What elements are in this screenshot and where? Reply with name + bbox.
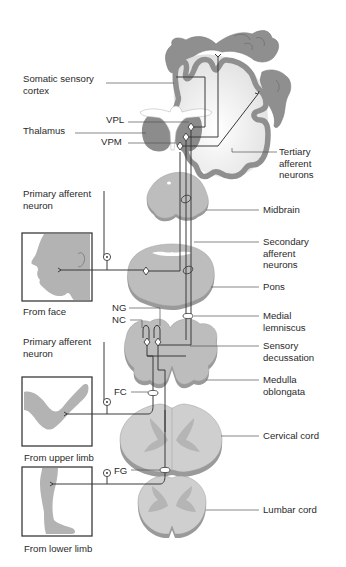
label-lumbar-cord: Lumbar cord: [263, 504, 317, 516]
fg-oval: [160, 467, 170, 472]
label-medial-lemniscus: Medial lemniscus: [263, 310, 306, 333]
midbrain: [147, 172, 208, 221]
medulla-oblongata: [124, 319, 217, 388]
lumbar-cord: [138, 476, 206, 538]
label-cervical-cord: Cervical cord: [263, 430, 319, 442]
label-from-face: From face: [23, 306, 66, 318]
label-vpm: VPM: [101, 136, 122, 148]
somatosensory-pathway-diagram: Somatic sensory cortex Thalamus VPL VPM …: [0, 0, 346, 567]
label-midbrain: Midbrain: [263, 204, 300, 216]
label-vpl: VPL: [106, 114, 124, 126]
label-pons: Pons: [263, 281, 285, 293]
label-somatic-sensory-cortex: Somatic sensory cortex: [23, 73, 94, 96]
face-panel: [22, 233, 92, 301]
label-nc: NC: [112, 314, 126, 326]
fc-oval: [148, 390, 158, 395]
cerebrum: [165, 31, 290, 178]
label-thalamus: Thalamus: [23, 125, 65, 137]
label-secondary-afferent-neurons: Secondary afferent neurons: [263, 236, 309, 271]
lower-limb-panel: [22, 467, 92, 536]
label-from-lower-limb: From lower limb: [24, 543, 92, 555]
label-tertiary-afferent-neurons: Tertiary afferent neurons: [279, 146, 314, 181]
medial-lemniscus-oval: [183, 313, 193, 318]
label-from-upper-limb: From upper limb: [24, 452, 94, 464]
label-sensory-decussation: Sensory decussation: [263, 340, 314, 363]
label-ng: NG: [112, 302, 126, 314]
label-primary-afferent-neuron-limb: Primary afferent neuron: [23, 336, 91, 359]
label-primary-afferent-neuron-face: Primary afferent neuron: [23, 188, 91, 211]
upper-limb-panel: [22, 377, 92, 446]
pons: [128, 244, 215, 310]
label-medulla-oblongata: Medulla oblongata: [263, 374, 305, 397]
label-fg: FG: [114, 465, 127, 477]
cervical-cord: [120, 404, 222, 477]
label-fc: FC: [114, 386, 127, 398]
